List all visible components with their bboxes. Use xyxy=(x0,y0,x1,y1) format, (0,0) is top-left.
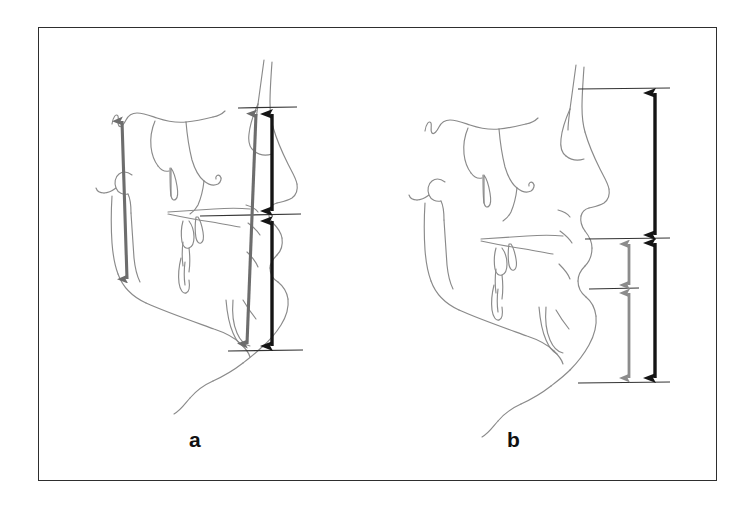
figure-border-frame xyxy=(38,27,717,481)
figure-root: a b xyxy=(0,0,752,507)
panel-label-b: b xyxy=(507,428,520,452)
panel-label-a: a xyxy=(189,428,201,452)
